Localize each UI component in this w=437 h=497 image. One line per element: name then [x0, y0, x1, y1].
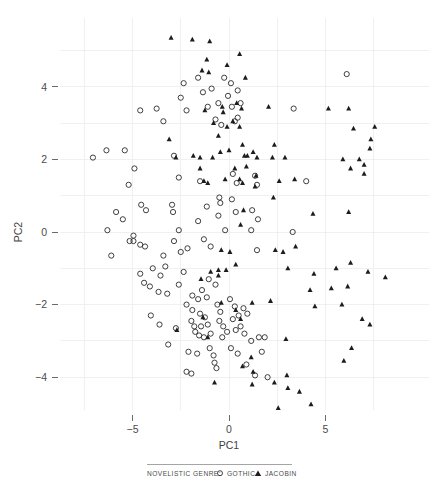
data-point-jacobin — [365, 269, 370, 274]
data-point-jacobin — [270, 155, 275, 160]
data-point-gothic — [195, 351, 200, 356]
data-point-gothic — [158, 273, 163, 278]
data-point-jacobin — [199, 276, 204, 281]
data-point-jacobin — [169, 35, 174, 40]
data-point-jacobin — [368, 137, 373, 142]
data-point-jacobin — [348, 166, 353, 171]
data-point-jacobin — [190, 37, 195, 42]
data-point-jacobin — [237, 177, 242, 182]
data-point-jacobin — [204, 57, 209, 62]
data-point-jacobin — [232, 166, 237, 171]
data-point-jacobin — [243, 75, 248, 80]
data-point-jacobin — [346, 106, 351, 111]
data-point-jacobin — [198, 166, 203, 171]
data-point-jacobin — [340, 157, 345, 162]
data-point-jacobin — [346, 209, 351, 214]
data-point-jacobin — [367, 322, 372, 327]
data-point-jacobin — [351, 126, 356, 131]
data-point-jacobin — [266, 104, 271, 109]
data-point-jacobin — [219, 300, 224, 305]
data-point-jacobin — [240, 142, 245, 147]
data-point-gothic — [138, 271, 143, 276]
data-point-gothic — [166, 342, 171, 347]
data-point-gothic — [138, 108, 143, 113]
data-point-jacobin — [251, 369, 256, 374]
data-point-jacobin — [383, 275, 388, 280]
data-point-jacobin — [272, 142, 277, 147]
legend-label-gothic: GOTHIC — [227, 470, 255, 477]
data-point-gothic — [244, 362, 249, 367]
y-axis-title: PC2 — [12, 222, 24, 243]
data-point-gothic — [207, 346, 212, 351]
data-point-jacobin — [200, 314, 205, 319]
data-point-gothic — [216, 213, 221, 218]
data-point-jacobin — [268, 298, 273, 303]
data-point-gothic — [304, 179, 309, 184]
data-point-gothic — [221, 324, 226, 329]
data-point-jacobin — [227, 147, 232, 152]
x-axis-title: PC1 — [219, 439, 240, 451]
data-point-gothic — [170, 209, 175, 214]
data-point-gothic — [241, 306, 246, 311]
legend-label-jacobin: JACOBIN — [265, 470, 297, 477]
data-point-jacobin — [293, 244, 298, 249]
legend-entry-gothic[interactable]: GOTHIC — [218, 470, 256, 477]
data-point-jacobin — [167, 137, 172, 142]
data-point-jacobin — [227, 249, 232, 254]
data-point-gothic — [165, 291, 170, 296]
data-point-gothic — [218, 309, 223, 314]
series-gothic-points — [90, 71, 349, 379]
data-point-jacobin — [249, 354, 254, 359]
data-point-gothic — [218, 200, 223, 205]
y-tick-label: 2 — [41, 153, 47, 165]
data-point-gothic — [216, 101, 221, 106]
data-point-jacobin — [173, 155, 178, 160]
data-point-jacobin — [345, 284, 350, 289]
data-point-gothic — [189, 371, 194, 376]
data-point-jacobin — [241, 207, 246, 212]
scatter-plot-canvas: 420−2−4 −505 PC2 PC1 NOVELISTIC GENRE: G… — [0, 0, 437, 497]
data-point-jacobin — [254, 155, 259, 160]
data-point-gothic — [227, 297, 232, 302]
data-point-gothic — [169, 202, 174, 207]
data-point-jacobin — [210, 155, 215, 160]
data-point-gothic — [186, 349, 191, 354]
data-point-gothic — [291, 106, 296, 111]
data-point-gothic — [196, 219, 201, 224]
y-tick-label: −4 — [35, 371, 47, 383]
data-point-gothic — [199, 287, 204, 292]
data-point-jacobin — [311, 271, 316, 276]
data-point-gothic — [196, 297, 201, 302]
data-point-jacobin — [272, 380, 277, 385]
data-point-jacobin — [372, 124, 377, 129]
data-point-gothic — [181, 81, 186, 86]
data-point-gothic — [156, 289, 161, 294]
data-point-jacobin — [349, 345, 354, 350]
data-point-gothic — [204, 204, 209, 209]
data-point-gothic — [147, 284, 152, 289]
data-point-jacobin — [223, 177, 228, 182]
data-point-gothic — [259, 349, 264, 354]
data-point-jacobin — [341, 358, 346, 363]
data-point-gothic — [206, 277, 211, 282]
data-point-gothic — [208, 331, 213, 336]
data-point-jacobin — [206, 69, 211, 74]
data-point-gothic — [213, 282, 218, 287]
data-point-jacobin — [233, 262, 238, 267]
data-point-jacobin — [326, 106, 331, 111]
x-tick-label: −5 — [127, 423, 139, 435]
data-point-gothic — [235, 88, 240, 93]
jacobin-legend-marker — [255, 470, 261, 476]
data-point-gothic — [120, 217, 125, 222]
data-point-jacobin — [329, 285, 334, 290]
data-point-gothic — [154, 106, 159, 111]
data-point-jacobin — [297, 389, 302, 394]
data-point-jacobin — [244, 164, 249, 169]
data-point-jacobin — [334, 265, 339, 270]
data-point-jacobin — [284, 373, 289, 378]
data-point-jacobin — [281, 249, 286, 254]
data-point-gothic — [161, 253, 166, 258]
legend-entry-jacobin[interactable]: JACOBIN — [255, 470, 297, 477]
data-point-jacobin — [308, 287, 313, 292]
data-point-gothic — [181, 269, 186, 274]
